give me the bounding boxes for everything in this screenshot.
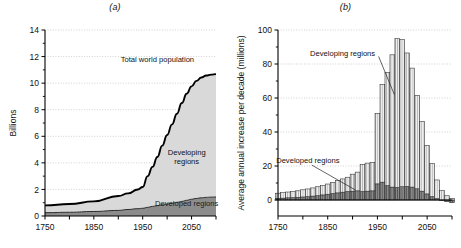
bar-developed-regions xyxy=(360,192,365,201)
bar-developed-regions xyxy=(420,191,425,200)
bar-developing-regions xyxy=(295,191,300,197)
bar-developing-regions xyxy=(405,53,410,186)
bar-developed-regions xyxy=(350,191,355,200)
bar-developing-regions xyxy=(400,40,405,187)
bar-developed-regions xyxy=(370,191,375,200)
bar-developing-regions xyxy=(435,180,440,199)
x-tick-label: 1950 xyxy=(133,222,152,232)
bar-developing-regions xyxy=(380,84,385,182)
y-tick-label: 40 xyxy=(263,127,273,137)
bar-developing-regions xyxy=(425,145,430,193)
bar-developing-regions xyxy=(335,181,340,193)
y-tick-label: 80 xyxy=(263,59,273,69)
y-tick-label: 60 xyxy=(263,93,273,103)
x-tick-label: 1750 xyxy=(269,222,288,232)
x-tick-label: 2050 xyxy=(182,222,201,232)
bar-developing-regions xyxy=(420,121,425,191)
bar-developing-regions xyxy=(390,55,395,187)
y-tick-label: 0 xyxy=(267,195,272,205)
panel-a-population-area-chart: (a) 024681012141750185019502050BillionsT… xyxy=(0,0,230,248)
bar-developing-regions xyxy=(281,193,286,198)
bar-developed-regions xyxy=(415,189,420,200)
bar-developed-regions xyxy=(325,194,330,200)
bar-developing-regions xyxy=(360,164,365,191)
y-tick-label: 20 xyxy=(263,161,273,171)
bar-developing-regions xyxy=(340,179,345,192)
bar-developed-regions xyxy=(345,192,350,201)
bar-developed-regions xyxy=(330,194,335,200)
bar-developing-regions xyxy=(291,192,296,198)
bar-developing-regions xyxy=(315,187,320,196)
bar-developing-regions xyxy=(300,190,305,197)
annotation-developing-regions: Developing xyxy=(168,148,206,157)
y-axis-title: Average annual increase per decade (mill… xyxy=(236,35,246,210)
bar-developed-regions xyxy=(335,193,340,200)
bar-developed-regions xyxy=(430,197,435,200)
bar-developed-regions xyxy=(310,196,315,200)
bar-developed-regions xyxy=(390,187,395,200)
bar-developed-regions xyxy=(375,184,380,200)
y-tick-label: 100 xyxy=(258,25,272,35)
y-tick-label: 0 xyxy=(34,211,39,221)
bar-developing-regions xyxy=(320,185,325,195)
y-axis-title: Billions xyxy=(8,110,18,137)
y-tick-label: 8 xyxy=(34,105,39,115)
bar-developed-regions xyxy=(355,191,360,200)
bar-developing-regions xyxy=(430,163,435,196)
annotation-developed-regions: Developed regions xyxy=(155,199,219,208)
bar-developed-regions xyxy=(405,186,410,200)
bar-developing-regions xyxy=(375,113,380,184)
bar-developing-regions xyxy=(385,73,390,186)
bar-developed-regions xyxy=(380,182,385,200)
panel-a-plot: 024681012141750185019502050BillionsTotal… xyxy=(0,0,230,248)
x-tick-label: 2050 xyxy=(418,222,437,232)
bar-developing-regions xyxy=(395,39,400,188)
bar-developing-regions xyxy=(410,68,415,187)
annotation-total-world-population: Total world population xyxy=(121,55,194,64)
x-tick-label: 1850 xyxy=(84,222,103,232)
bar-developing-regions xyxy=(355,172,360,191)
bar-developing-regions xyxy=(365,163,370,191)
bar-developing-regions xyxy=(325,184,330,194)
y-tick-label: 12 xyxy=(30,52,40,62)
bar-developed-regions xyxy=(340,192,345,200)
bar-developed-regions xyxy=(365,191,370,200)
bar-developing-regions xyxy=(310,188,315,196)
bar-developed-regions xyxy=(305,197,310,200)
annotation-developing-regions-line2: regions xyxy=(174,157,199,166)
y-tick-label: 10 xyxy=(30,78,40,88)
annotation-developed-regions: Developed regions xyxy=(276,156,340,165)
x-tick-label: 1750 xyxy=(36,222,55,232)
bar-developing-regions xyxy=(415,95,420,189)
bar-developing-regions xyxy=(445,196,450,200)
bar-developing-regions xyxy=(305,189,310,197)
panel-b-plot: 0204060801001750185019502050Average annu… xyxy=(230,0,461,248)
y-tick-label: 4 xyxy=(34,158,39,168)
x-tick-label: 1850 xyxy=(318,222,337,232)
bar-developed-regions xyxy=(395,187,400,200)
x-tick-label: 1950 xyxy=(368,222,387,232)
bar-developed-regions xyxy=(385,186,390,200)
bar-developing-regions xyxy=(330,182,335,193)
bar-developing-regions xyxy=(286,192,291,198)
bar-developed-regions xyxy=(315,196,320,200)
bar-developed-regions xyxy=(400,187,405,200)
bar-developed-regions xyxy=(410,187,415,200)
annotation-developing-regions: Developing regions xyxy=(310,49,375,58)
y-tick-label: 2 xyxy=(34,185,39,195)
y-tick-label: 6 xyxy=(34,131,39,141)
y-tick-label: 14 xyxy=(30,25,40,35)
bar-developing-regions xyxy=(440,191,445,200)
bar-developing-regions xyxy=(370,162,375,191)
panel-b-annual-increase-bar-chart: (b) 0204060801001750185019502050Average … xyxy=(230,0,461,248)
bar-developed-regions xyxy=(425,194,430,200)
bar-developed-regions xyxy=(320,195,325,200)
